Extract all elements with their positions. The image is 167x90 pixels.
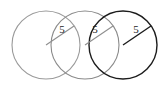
figure-container: 5 5 5 <box>0 0 167 90</box>
radius-label-right: 5 <box>133 23 139 35</box>
radius-label-middle: 5 <box>92 23 98 35</box>
radius-label-left: 5 <box>59 23 65 35</box>
diagram-background <box>0 0 167 90</box>
circles-diagram: 5 5 5 <box>0 0 167 90</box>
